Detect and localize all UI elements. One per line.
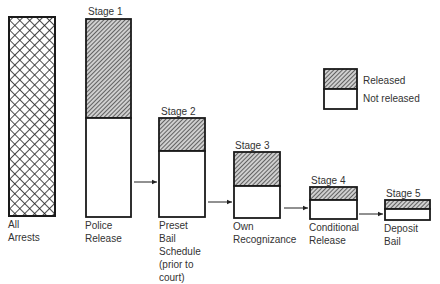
stage-5-label: Deposit Bail xyxy=(384,222,418,248)
stage-2-label-line: (prior to xyxy=(159,258,201,271)
stage-3-title: Stage 3 xyxy=(235,140,269,151)
stage-4-label: Conditional Release xyxy=(309,221,359,247)
stage-4-title: Stage 4 xyxy=(311,175,345,186)
stage-5-bar xyxy=(385,200,430,220)
stage-2-title: Stage 2 xyxy=(161,106,195,117)
stage-5-label-line: Deposit xyxy=(384,222,418,235)
all-arrests-label-line1: All xyxy=(8,218,40,231)
stage-2-label-line: Schedule xyxy=(159,245,201,258)
stage-4-bar xyxy=(310,187,357,219)
stage-2-label: Preset Bail Schedule (prior to court) xyxy=(159,219,201,284)
stage-1-label-line: Police xyxy=(85,219,122,232)
stage-3-label-line: Recognizance xyxy=(233,233,296,246)
stage-1-label: Police Release xyxy=(85,219,122,245)
stage-3-label-line: Own xyxy=(233,220,296,233)
stage-4-label-line: Conditional xyxy=(309,221,359,234)
all-arrests-label: All Arrests xyxy=(8,218,40,244)
legend-swatches xyxy=(324,69,357,109)
stage-2-bar xyxy=(159,118,205,217)
stage-3-bar xyxy=(234,152,280,218)
stage-4-label-line: Release xyxy=(309,234,359,247)
legend-released-label: Released xyxy=(363,75,405,87)
stage-5-label-line: Bail xyxy=(384,235,418,248)
legend-not-released-label: Not released xyxy=(363,93,420,105)
stage-1-bar xyxy=(86,19,131,217)
stage-2-label-line: Bail xyxy=(159,232,201,245)
stage-5-title: Stage 5 xyxy=(386,188,420,199)
stage-2-label-line: court) xyxy=(159,271,201,284)
stage-1-label-line: Release xyxy=(85,232,122,245)
stage-2-label-line: Preset xyxy=(159,219,201,232)
stage-1-title: Stage 1 xyxy=(88,6,122,17)
stage-3-label: Own Recognizance xyxy=(233,220,296,246)
diagram-canvas xyxy=(0,0,440,284)
all-arrests-label-line2: Arrests xyxy=(8,231,40,244)
all-arrests-bar xyxy=(9,17,55,216)
